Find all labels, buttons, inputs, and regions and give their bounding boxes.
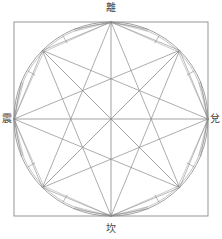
chord <box>111 22 180 188</box>
rim-chord-inner <box>14 119 44 186</box>
chord <box>111 50 180 216</box>
chord <box>42 119 208 188</box>
rim-chord <box>74 209 111 216</box>
rim-chord-inner <box>111 22 178 52</box>
chord <box>14 50 180 119</box>
label-left-zhen: 震 <box>1 114 13 124</box>
rim-chord-inner <box>14 52 44 119</box>
label-top-li: 離 <box>105 3 117 13</box>
label-bottom-kan: 坎 <box>105 224 117 234</box>
chord <box>42 50 111 216</box>
trigram-circle-diagram <box>0 0 222 239</box>
chord <box>42 50 208 119</box>
chord <box>42 22 111 188</box>
rim-chord-inner <box>178 119 208 186</box>
rim-chord-inner <box>111 186 178 216</box>
rim-chord <box>111 209 148 216</box>
rim-chord-inner <box>178 52 208 119</box>
label-right-dui: 兌 <box>209 114 221 124</box>
chord <box>14 119 180 188</box>
rim-chord <box>74 22 111 29</box>
rim-chord <box>14 119 21 156</box>
rim-chord <box>14 82 21 119</box>
rim-chord <box>201 82 208 119</box>
rim-chord <box>111 22 148 29</box>
rim-chord-inner <box>44 186 111 216</box>
rim-chord <box>201 119 208 156</box>
rim-chord-inner <box>44 22 111 52</box>
